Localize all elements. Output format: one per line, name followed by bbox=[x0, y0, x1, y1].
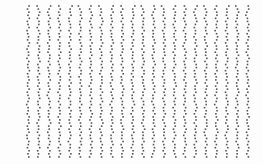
scatter-plot-canvas bbox=[0, 0, 263, 164]
figure-container bbox=[0, 0, 263, 164]
